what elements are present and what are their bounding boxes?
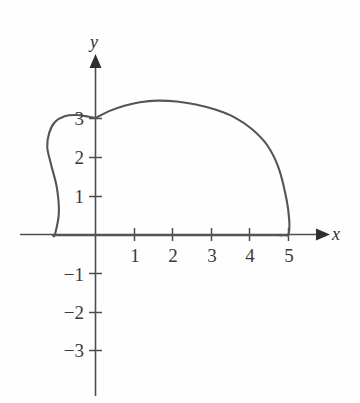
y-tick-label-2: 2 (58, 148, 84, 167)
y-tick-label-minus-2: −2 (46, 303, 84, 322)
y-tick-label-3: 3 (58, 109, 84, 128)
figure-panel: 1 2 3 4 5 3 2 1 −1 −2 −3 x y (0, 0, 360, 403)
y-tick-label-minus-1: −1 (46, 265, 84, 284)
x-axis-arrow-icon (316, 229, 330, 241)
x-axis-label: x (332, 225, 340, 243)
y-tick-label-1: 1 (58, 187, 84, 206)
x-tick-label-3: 3 (207, 246, 217, 265)
x-tick-label-4: 4 (245, 246, 255, 265)
x-tick-label-1: 1 (130, 246, 140, 265)
x-tick-label-5: 5 (284, 246, 294, 265)
y-axis-label: y (90, 33, 98, 51)
y-axis-arrow-icon (90, 54, 102, 68)
y-tick-label-minus-3: −3 (46, 341, 84, 360)
x-tick-label-2: 2 (168, 246, 178, 265)
